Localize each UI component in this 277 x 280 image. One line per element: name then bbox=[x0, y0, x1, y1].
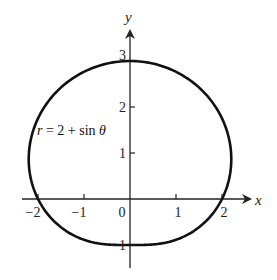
x-tick-label: 2 bbox=[221, 205, 228, 220]
y-axis-label: y bbox=[123, 9, 132, 25]
polar-plot: −2−1012−1123 x y r = 2 + sin θ bbox=[0, 0, 277, 280]
x-tick-label: −2 bbox=[26, 205, 41, 220]
y-tick-label: 2 bbox=[119, 100, 126, 115]
axes bbox=[22, 29, 252, 268]
y-tick-label: −1 bbox=[111, 238, 126, 253]
x-tick-label: 0 bbox=[119, 205, 126, 220]
x-tick-label: −1 bbox=[72, 205, 87, 220]
equation-theta: θ bbox=[99, 123, 106, 138]
equation-rest: = 2 + sin bbox=[42, 123, 99, 138]
equation-label: r = 2 + sin θ bbox=[37, 123, 106, 138]
y-tick-label: 3 bbox=[119, 48, 126, 63]
x-tick-label: 1 bbox=[175, 205, 182, 220]
x-axis-label: x bbox=[254, 192, 262, 208]
y-tick-label: 1 bbox=[119, 146, 126, 161]
